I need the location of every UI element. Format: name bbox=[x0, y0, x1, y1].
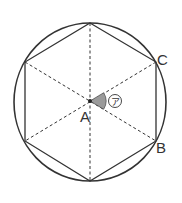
hexagon-circle-diagram: ア A C B bbox=[0, 0, 182, 203]
angle-mark-label: ア bbox=[111, 97, 120, 107]
center-point bbox=[88, 99, 92, 103]
label-c: C bbox=[157, 51, 168, 68]
angle-wedge bbox=[90, 93, 106, 110]
label-b: B bbox=[156, 139, 166, 156]
label-a: A bbox=[80, 108, 90, 125]
